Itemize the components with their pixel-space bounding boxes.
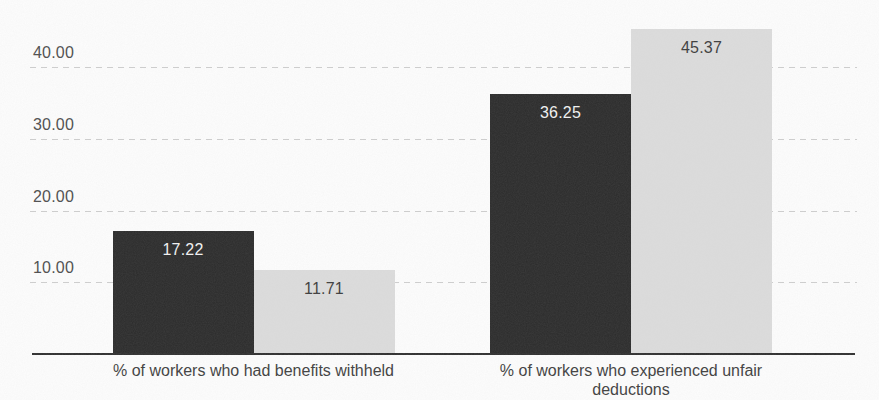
bar-value-label: 36.25 <box>490 104 631 122</box>
bar-dark-series-category-2 <box>490 94 631 354</box>
y-axis-tick-label: 40.00 <box>33 43 74 63</box>
bar-value-label: 45.37 <box>631 39 772 57</box>
x-axis-category-label: % of workers who had benefits withheld <box>94 361 414 380</box>
bar-value-label: 11.71 <box>254 280 395 298</box>
y-axis-tick-label: 20.00 <box>33 187 74 207</box>
y-axis-tick-label: 30.00 <box>33 115 74 135</box>
x-axis-baseline <box>32 353 855 355</box>
y-axis-tick-label: 10.00 <box>33 258 74 278</box>
x-axis-category-label: % of workers who experienced unfair dedu… <box>471 361 791 399</box>
bar-value-label: 17.22 <box>113 241 254 259</box>
bar-chart: 40.0030.0020.0010.0017.2211.7136.2545.37… <box>0 0 879 400</box>
plot-area: 40.0030.0020.0010.0017.2211.7136.2545.37 <box>0 0 879 400</box>
bar-light-series-category-2 <box>631 29 772 354</box>
